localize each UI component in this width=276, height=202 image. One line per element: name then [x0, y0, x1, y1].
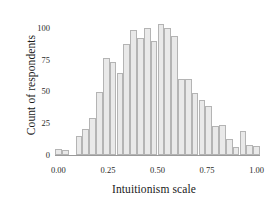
x-tick-label: 0.75 — [190, 166, 224, 175]
x-axis-tick-labels: 0.000.250.500.751.00 — [55, 166, 260, 178]
y-tick-label: 0 — [26, 151, 50, 160]
x-tick-label: 0.25 — [91, 166, 125, 175]
x-axis-line — [55, 155, 260, 156]
histogram-bar — [164, 28, 171, 155]
x-tick-label: 0.50 — [141, 166, 175, 175]
y-tick-label: 50 — [26, 87, 50, 96]
histogram-bar — [82, 129, 89, 156]
histogram-bar — [144, 28, 151, 155]
histogram-bar — [212, 126, 219, 155]
histogram-figure: Count of respondents 0255075100 0.000.25… — [0, 0, 276, 202]
histogram-bar — [199, 100, 206, 156]
histogram-bar — [137, 38, 144, 155]
x-tick-label: 0.00 — [41, 166, 75, 175]
histogram-bar — [151, 41, 158, 155]
histogram-bar — [226, 139, 233, 155]
histogram-bar — [240, 131, 247, 155]
y-tick-label: 100 — [26, 24, 50, 33]
histogram-bar — [117, 73, 124, 155]
histogram-bar — [76, 136, 83, 155]
histogram-bar — [192, 93, 199, 155]
histogram-bar — [130, 30, 137, 155]
histogram-bar — [103, 58, 110, 155]
plot-area — [55, 20, 260, 155]
histogram-bar — [96, 92, 103, 155]
histogram-bar — [171, 36, 178, 155]
x-tick-label: 1.00 — [240, 166, 274, 175]
histogram-bar — [253, 146, 260, 155]
histogram-bar — [219, 125, 226, 155]
histogram-bar — [178, 79, 185, 155]
histogram-bar — [185, 79, 192, 155]
histogram-bar — [205, 106, 212, 155]
histogram-bar — [158, 24, 165, 155]
histogram-bar — [246, 145, 253, 155]
x-axis-title: Intuitionism scale — [48, 183, 260, 195]
histogram-bar — [110, 62, 117, 155]
y-tick-label: 25 — [26, 119, 50, 128]
y-tick-label: 75 — [26, 56, 50, 65]
histogram-bar — [123, 44, 130, 155]
histogram-bar — [233, 147, 240, 155]
histogram-bar — [89, 118, 96, 155]
